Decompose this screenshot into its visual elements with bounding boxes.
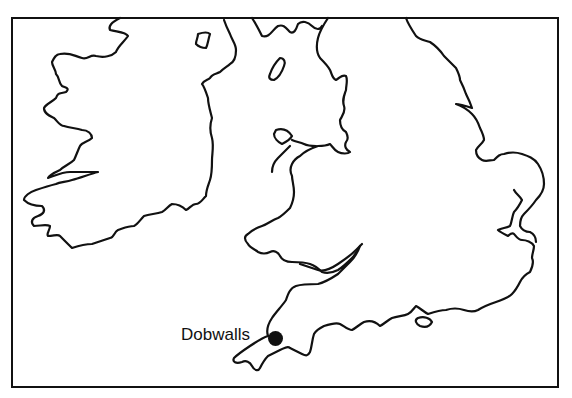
coastline-map	[0, 0, 572, 398]
dobwalls-marker-dot	[268, 331, 283, 346]
anglesey	[274, 129, 292, 144]
isle-of-wight	[416, 317, 432, 327]
island	[196, 33, 210, 49]
gb-west-coast	[245, 18, 360, 336]
gb-east-coast	[406, 18, 544, 242]
isle-of-man	[269, 58, 285, 80]
wales-lleyn	[272, 146, 290, 172]
scotland-coast	[252, 18, 322, 36]
north-wales-coast	[292, 140, 316, 146]
dobwalls-label: Dobwalls	[181, 325, 250, 345]
ireland-coast	[24, 18, 236, 248]
